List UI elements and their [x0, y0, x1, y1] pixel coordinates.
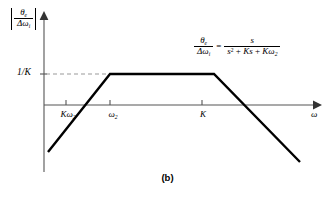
figure-caption: (b) — [0, 172, 335, 183]
x-tick-label-K: K — [196, 110, 210, 119]
y-axis-label: θe Δωi — [9, 8, 38, 30]
x-tick-label-omega-2: ω2 — [101, 110, 125, 120]
y-axis-arrowhead — [40, 11, 49, 20]
equation-rhs: s s2 + Ks + Kω2 — [224, 36, 280, 57]
figure-container: θe Δωi 1/K Kω2 ω2 K ω θe Δωi = s s2 + Ks… — [0, 0, 335, 197]
asymptotic-magnitude-curve — [48, 74, 300, 162]
x-tick-label-K-omega-2: Kω2 — [52, 110, 84, 120]
equation-equals-sign: = — [216, 42, 221, 51]
y-axis-label-denominator: Δωi — [14, 19, 33, 29]
y-tick-label-one-over-K: 1/K — [17, 68, 31, 78]
y-axis-label-fraction: θe Δωi — [14, 8, 33, 30]
equation-lhs-denominator: Δωi — [194, 47, 213, 57]
abs-bar-left — [11, 8, 12, 30]
x-axis-label: ω — [311, 110, 317, 119]
transfer-function-equation: θe Δωi = s s2 + Ks + Kω2 — [194, 36, 280, 58]
abs-bar-right — [35, 8, 36, 30]
plot-canvas — [0, 0, 335, 197]
equation-rhs-denominator: s2 + Ks + Kω2 — [224, 47, 280, 57]
equation-lhs: θe Δωi — [194, 36, 213, 58]
